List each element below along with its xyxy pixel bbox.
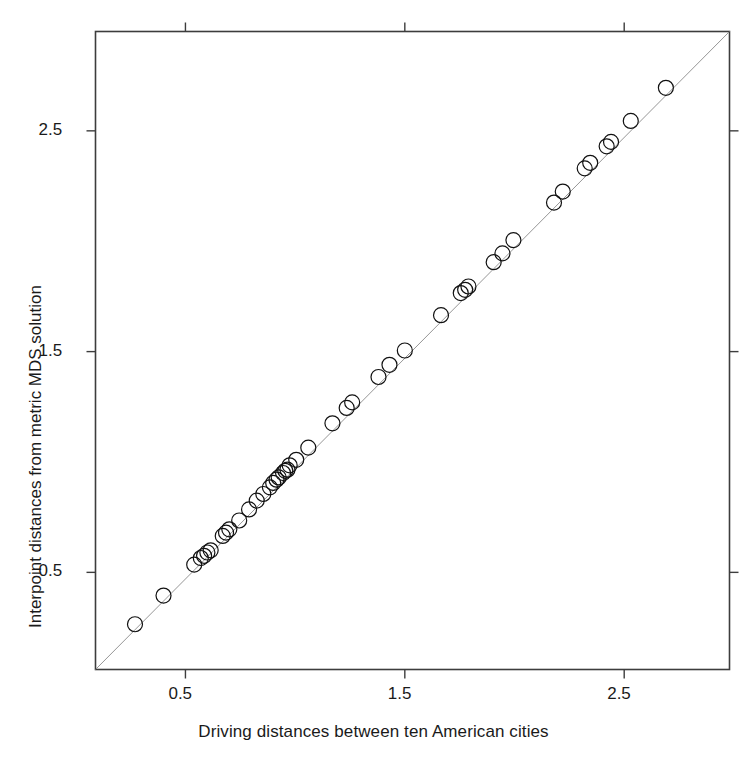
data-point-marker: [397, 343, 412, 358]
x-tick-label: 1.5: [388, 684, 412, 704]
data-points-group: [127, 80, 673, 631]
data-point-marker: [604, 134, 619, 149]
x-axis-title: Driving distances between ten American c…: [0, 722, 747, 742]
data-point-marker: [555, 184, 570, 199]
data-point-marker: [623, 113, 638, 128]
x-tick-label: 0.5: [168, 684, 192, 704]
scatter-plot-figure: Interpoint distances from metric MDS sol…: [0, 0, 747, 762]
y-axis-title-wrapper: Interpoint distances from metric MDS sol…: [0, 0, 34, 700]
y-tick-label: 1.5: [39, 341, 63, 361]
data-point-marker: [325, 416, 340, 431]
x-tick-label: 2.5: [607, 684, 631, 704]
y-tick-label: 2.5: [39, 120, 63, 140]
data-point-marker: [658, 80, 673, 95]
y-tick-label: 0.5: [39, 561, 63, 581]
data-point-marker: [203, 543, 218, 558]
data-point-marker: [249, 493, 264, 508]
data-point-marker: [289, 452, 304, 467]
data-point-marker: [434, 308, 449, 323]
data-point-marker: [301, 440, 316, 455]
data-point-marker: [506, 233, 521, 248]
data-point-marker: [495, 246, 510, 261]
plot-canvas: [0, 0, 747, 762]
data-point-marker: [458, 282, 473, 297]
data-point-marker: [599, 139, 614, 154]
data-point-marker: [382, 357, 397, 372]
data-point-marker: [197, 548, 212, 563]
data-point-marker: [486, 255, 501, 270]
data-point-marker: [371, 369, 386, 384]
